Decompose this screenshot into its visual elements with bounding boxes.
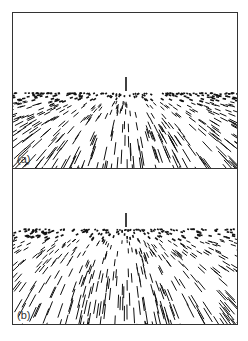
- flow-field-a: [13, 13, 238, 169]
- flow-field-b: [13, 169, 238, 325]
- panel-b: (b): [12, 168, 238, 325]
- panel-label-b: (b): [17, 309, 30, 321]
- panel-label-a: (a): [17, 153, 30, 165]
- panel-a: (a): [12, 12, 238, 169]
